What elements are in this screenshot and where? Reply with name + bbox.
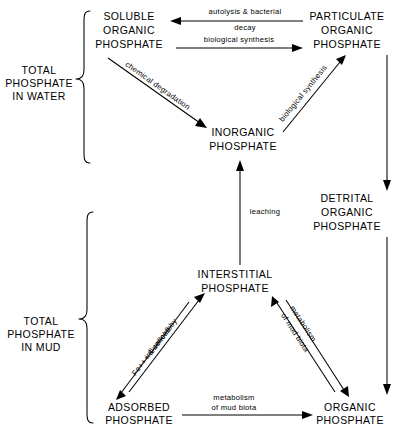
arrowhead-metabolism-bottom	[302, 411, 313, 419]
adsorbed-line-1: PHOSPHATE	[105, 414, 173, 426]
soluble-line-1: ORGANIC	[103, 24, 155, 36]
edge-chemical-degradation: chemical degradation	[108, 58, 207, 128]
group-label-total-phosphate-in-water: TOTAL PHOSPHATE IN WATER	[5, 64, 73, 102]
detrital-line-0: DETRITAL	[320, 192, 373, 204]
soluble-line-0: SOLUBLE	[103, 10, 154, 22]
arrowhead-biological-synthesis-top	[292, 44, 303, 52]
organic-line-1: PHOSPHATE	[316, 414, 384, 426]
brace-total-phosphate-in-water	[76, 11, 90, 163]
edge-metabolism-of-mud-biota-bottom: metabolism of mud biota	[182, 393, 313, 419]
edge-autolysis-bacterial-decay: autolysis & bacterial decay	[170, 7, 303, 32]
adsorbed-line-0: ADSORBED	[108, 401, 170, 413]
arrowhead-interstitial-to-organic	[340, 386, 349, 397]
node-detrital-organic-phosphate: DETRITAL ORGANIC PHOSPHATE	[313, 192, 381, 232]
node-inorganic-phosphate: INORGANIC PHOSPHATE	[209, 126, 277, 152]
edge-biological-synthesis-top: biological synthesis	[176, 35, 303, 52]
node-adsorbed-phosphate: ADSORBED PHOSPHATE	[105, 401, 173, 426]
arrowhead-autolysis	[170, 17, 181, 25]
arrowhead-biological-synthesis-right	[336, 55, 346, 65]
phosphate-cycle-diagram: TOTAL PHOSPHATE IN WATER TOTAL PHOSPHATE…	[0, 0, 397, 433]
particulate-line-2: PHOSPHATE	[313, 38, 381, 50]
arrowhead-chemical-degradation	[195, 118, 207, 128]
detrital-line-1: ORGANIC	[321, 206, 373, 218]
group-mud-line-0: TOTAL	[24, 315, 59, 327]
interstitial-line-0: INTERSTITIAL	[198, 268, 273, 280]
label-fe-colloids: Fe+++ & colloids	[130, 324, 174, 378]
particulate-line-0: PARTICULATE	[310, 10, 385, 22]
group-water-line-0: TOTAL	[22, 64, 57, 76]
label-autolysis-line-0: autolysis & bacterial	[209, 7, 282, 16]
node-particulate-organic-phosphate: PARTICULATE ORGANIC PHOSPHATE	[310, 10, 385, 50]
interstitial-line-1: PHOSPHATE	[201, 282, 269, 294]
edge-detrital-to-organic	[383, 237, 391, 395]
label-autolysis-line-1: decay	[234, 23, 256, 32]
edge-influenced-by-fe-colloids: influenced by Fe+++ & colloids	[116, 293, 205, 400]
label-biosynth-top: biological synthesis	[204, 35, 274, 44]
node-interstitial-phosphate: INTERSTITIAL PHOSPHATE	[198, 268, 273, 294]
node-organic-phosphate: ORGANIC PHOSPHATE	[316, 401, 384, 426]
arrowhead-organic-to-interstitial	[271, 296, 279, 307]
group-mud-line-1: PHOSPHATE	[7, 328, 75, 340]
group-water-line-2: IN WATER	[12, 90, 65, 102]
particulate-line-1: ORGANIC	[321, 24, 373, 36]
group-mud-line-2: IN MUD	[21, 341, 61, 353]
label-biosynth-right: biological synthesis	[277, 63, 328, 123]
arrowhead-detrital-to-organic	[383, 384, 391, 395]
arrowhead-interstitial-to-adsorbed	[116, 390, 126, 400]
edge-leaching: leaching	[236, 160, 280, 265]
node-soluble-organic-phosphate: SOLUBLE ORGANIC PHOSPHATE	[95, 10, 163, 50]
edge-particulate-to-detrital	[383, 55, 391, 191]
arrowhead-leaching	[236, 160, 244, 171]
label-metabolism-bottom-line-1: of mud biota	[212, 403, 257, 412]
edge-biological-synthesis-right: biological synthesis	[277, 55, 346, 132]
label-chemical-degradation: chemical degradation	[124, 60, 192, 112]
brace-total-phosphate-in-mud	[79, 212, 93, 423]
inorganic-line-0: INORGANIC	[211, 126, 274, 138]
arrowhead-adsorbed-to-interstitial	[194, 293, 205, 303]
label-metabolism-bottom-line-0: metabolism	[213, 393, 254, 402]
group-label-total-phosphate-in-mud: TOTAL PHOSPHATE IN MUD	[7, 315, 75, 353]
group-water-line-1: PHOSPHATE	[5, 77, 73, 89]
edge-metabolism-of-mud-biota-right: metabolism of mud biota	[271, 296, 349, 397]
diagram-canvas: TOTAL PHOSPHATE IN WATER TOTAL PHOSPHATE…	[0, 0, 397, 433]
detrital-line-2: PHOSPHATE	[313, 220, 381, 232]
organic-line-0: ORGANIC	[324, 401, 376, 413]
inorganic-line-1: PHOSPHATE	[209, 140, 277, 152]
label-leaching: leaching	[250, 207, 280, 216]
soluble-line-2: PHOSPHATE	[95, 38, 163, 50]
arrowhead-particulate-to-detrital	[383, 180, 391, 191]
